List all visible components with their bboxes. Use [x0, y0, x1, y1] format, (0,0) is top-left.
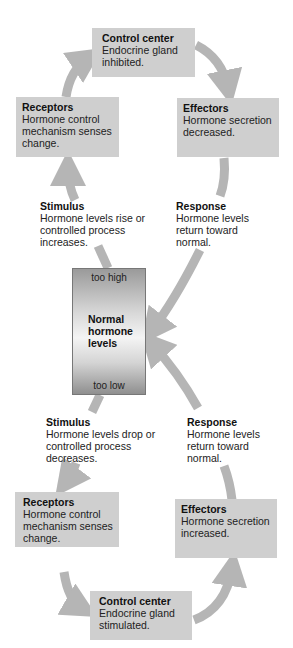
arrow-effectors-to-response-bottom: [224, 466, 232, 500]
bottom-control-center-body: Endocrine gland stimulated.: [99, 607, 175, 631]
top-receptors-body: Hormone control mechanism senses change.: [22, 113, 112, 149]
top-control-center-title: Control center: [102, 32, 189, 44]
bottom-stimulus-label: Stimulus Hormone levels drop or controll…: [46, 416, 161, 464]
line-low-to-stimulus: [92, 395, 100, 412]
arrow-receptors-to-control-top: [66, 58, 88, 97]
arrow-control-to-effectors-bottom: [194, 568, 232, 620]
normal-levels-title: Normal hormone levels: [88, 313, 136, 349]
top-stimulus-label: Stimulus Hormone levels rise or controll…: [40, 200, 150, 248]
top-effectors-title: Effectors: [183, 102, 273, 114]
arrow-effectors-to-response-top: [220, 158, 225, 196]
bottom-response-title: Response: [187, 416, 267, 428]
bottom-response-body: Hormone levels return toward normal.: [187, 428, 260, 464]
bottom-receptors-title: Receptors: [23, 496, 113, 508]
arrow-response-to-center-top: [152, 250, 200, 330]
bottom-stimulus-title: Stimulus: [46, 416, 161, 428]
top-response-title: Response: [176, 200, 256, 212]
top-effectors-box: Effectors Hormone secretion decreased.: [177, 98, 279, 157]
bottom-control-center-title: Control center: [99, 595, 186, 607]
top-control-center-body: Endocrine gland inhibited.: [102, 44, 178, 68]
bottom-effectors-title: Effectors: [181, 503, 271, 515]
top-stimulus-title: Stimulus: [40, 200, 150, 212]
normal-hormone-levels-box: too high Normal hormone levels too low: [72, 268, 146, 395]
bottom-response-label: Response Hormone levels return toward no…: [187, 416, 267, 464]
line-high-to-stimulus: [98, 246, 108, 268]
bottom-effectors-body: Hormone secretion increased.: [181, 515, 270, 539]
arrow-control-to-effectors-top: [196, 45, 228, 88]
arrow-receptors-to-control-bottom: [64, 572, 82, 608]
too-low-label: too low: [73, 380, 145, 391]
arrow-stimulus-to-receptors-top: [68, 168, 75, 200]
bottom-receptors-body: Hormone control mechanism senses change.: [23, 508, 113, 544]
bottom-stimulus-body: Hormone levels drop or controlled proces…: [46, 428, 155, 464]
top-effectors-body: Hormone secretion decreased.: [183, 114, 272, 138]
bottom-control-center-box: Control center Endocrine gland stimulate…: [90, 591, 192, 640]
top-receptors-title: Receptors: [22, 101, 113, 113]
arrow-response-to-center-bottom: [152, 344, 198, 408]
bottom-receptors-box: Receptors Hormone control mechanism sens…: [15, 492, 119, 547]
top-response-body: Hormone levels return toward normal.: [176, 212, 249, 248]
top-receptors-box: Receptors Hormone control mechanism sens…: [16, 97, 119, 157]
top-response-label: Response Hormone levels return toward no…: [176, 200, 256, 248]
top-stimulus-body: Hormone levels rise or controlled proces…: [40, 212, 145, 248]
arrow-stimulus-to-receptors-bottom: [66, 463, 76, 482]
top-control-center-box: Control center Endocrine gland inhibited…: [92, 28, 195, 77]
bottom-effectors-box: Effectors Hormone secretion increased.: [175, 499, 277, 558]
too-high-label: too high: [73, 272, 145, 283]
